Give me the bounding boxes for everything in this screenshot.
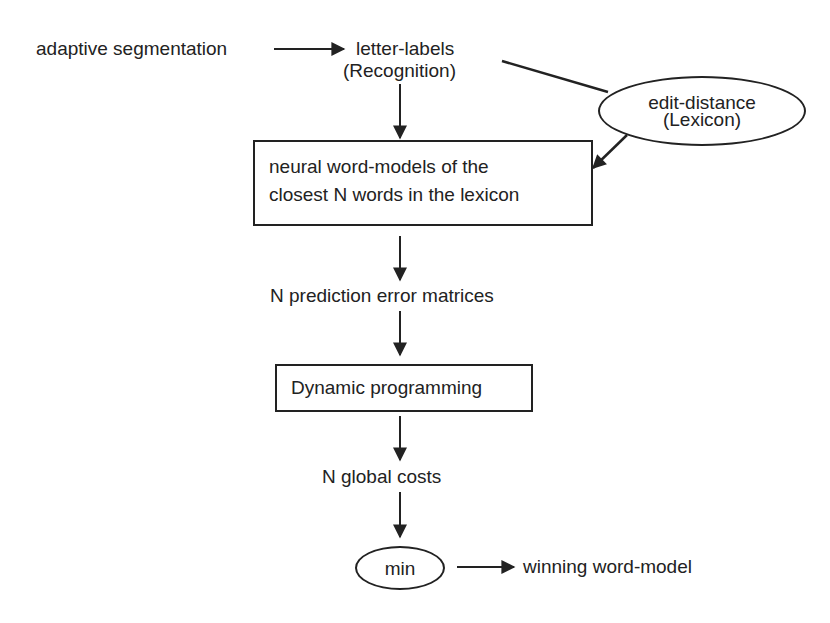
node-edit-distance: edit-distance (Lexicon) [598,76,806,146]
node-word-models: neural word-models of the closest N word… [253,140,593,226]
dynamic-programming-label: Dynamic programming [291,377,482,399]
arrow-edit-to-models [593,135,627,168]
word-models-line1: neural word-models of the [269,156,489,178]
word-models-line2: closest N words in the lexicon [269,184,519,206]
node-adaptive-segmentation: adaptive segmentation [36,38,227,60]
node-winning-word-model: winning word-model [523,556,692,578]
node-prediction-errors: N prediction error matrices [270,285,494,307]
lexicon-label: (Lexicon) [663,111,741,128]
node-min: min [355,546,445,590]
node-recognition-label: (Recognition) [343,60,456,82]
line-labels-to-edit [502,61,608,92]
node-letter-labels: letter-labels [356,38,454,60]
node-dynamic-programming: Dynamic programming [275,364,533,412]
min-label: min [385,560,416,577]
node-global-costs: N global costs [322,466,441,488]
